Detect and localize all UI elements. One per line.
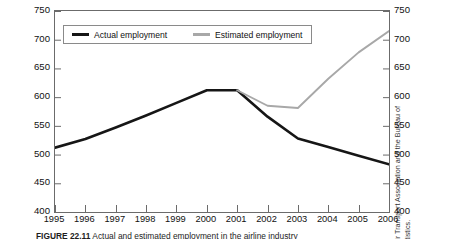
y-axis-tick-label-right: 450 — [394, 177, 420, 187]
y-axis-tick-label-right: 500 — [394, 149, 420, 159]
y-axis-tick-label-left: 550 — [24, 120, 50, 130]
y-axis-tick-label-left: 650 — [24, 62, 50, 72]
y-axis-tick-label-right: 750 — [394, 5, 420, 15]
series-line-actual-employment — [55, 90, 389, 164]
figure-number: FIGURE 22.11 — [36, 231, 90, 239]
y-axis-tick-label-left: 500 — [24, 149, 50, 159]
y-axis-tick-label-left: 700 — [24, 34, 50, 44]
figure-chart: Annual employment not seasonally adjuste… — [0, 0, 461, 239]
y-axis-tick-label-left: 600 — [24, 91, 50, 101]
figure-caption: FIGURE 22.11 Actual and estimated employ… — [36, 231, 456, 239]
chart-legend: Actual employment Estimated employment — [63, 25, 312, 44]
legend-swatch-actual-icon — [72, 33, 89, 36]
y-axis-tick-label-right: 650 — [394, 62, 420, 72]
legend-swatch-estimated-icon — [193, 33, 210, 35]
legend-entry-actual: Actual employment — [72, 30, 167, 40]
legend-entry-estimated: Estimated employment — [193, 30, 302, 40]
legend-label-actual: Actual employment — [94, 30, 167, 40]
figure-caption-text: Actual and estimated employment in the a… — [92, 231, 297, 239]
y-axis-tick-label-right: 700 — [394, 34, 420, 44]
y-axis-tick-label-left: 450 — [24, 177, 50, 187]
y-axis-tick-label-left: 750 — [24, 5, 50, 15]
y-axis-tick-label-right: 550 — [394, 120, 420, 130]
legend-label-estimated: Estimated employment — [215, 30, 302, 40]
x-axis-tick-label: 2006 — [368, 214, 408, 224]
y-axis-tick-label-right: 600 — [394, 91, 420, 101]
